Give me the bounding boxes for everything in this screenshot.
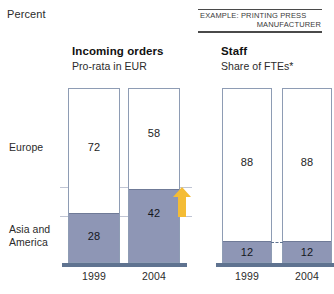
row-label-asia-america-line-1: Asia and <box>9 223 50 235</box>
bar-value-staff-1999-europe: 88 <box>223 156 271 168</box>
bar-value-staff-1999-asia-america: 12 <box>223 246 271 258</box>
axis-baseline-staff <box>216 263 334 267</box>
axis-baseline-incoming-orders <box>62 263 187 267</box>
panel-title-incoming-orders: Incoming orders <box>72 45 164 57</box>
bar-incoming-orders-2004[interactable]: 58 42 <box>128 88 180 263</box>
row-label-europe: Europe <box>9 141 43 154</box>
bar-value-orders-2004-europe: 58 <box>129 127 179 139</box>
example-note-box: EXAMPLE: PRINTING PRESS MANUFACTURER <box>198 9 322 33</box>
bar-value-orders-1999-asia-america: 28 <box>69 230 119 242</box>
bar-staff-2004[interactable]: 88 12 <box>282 88 332 263</box>
bar-segment-staff-1999-asia-america: 12 <box>223 241 271 262</box>
row-label-asia-america: Asia and America <box>9 223 50 249</box>
example-note-line-1: EXAMPLE: PRINTING PRESS <box>198 11 322 20</box>
staff-segment-connector-line <box>271 242 283 243</box>
y-axis-unit-label: Percent <box>7 8 46 20</box>
row-label-asia-america-line-2: America <box>9 236 48 248</box>
bar-value-orders-1999-europe: 72 <box>69 141 119 153</box>
panel-title-staff: Staff <box>221 45 247 57</box>
x-axis-label-staff-2004: 2004 <box>282 270 332 282</box>
bar-staff-1999[interactable]: 88 12 <box>222 88 272 263</box>
up-arrow-icon <box>172 186 192 218</box>
panel-subtitle-incoming-orders: Pro-rata in EUR <box>72 60 147 72</box>
bar-segment-orders-1999-asia-america: 28 <box>69 213 119 262</box>
bar-value-staff-2004-europe: 88 <box>283 156 331 168</box>
x-axis-label-orders-2004: 2004 <box>128 270 180 282</box>
bar-value-staff-2004-asia-america: 12 <box>283 246 331 258</box>
panel-subtitle-staff: Share of FTEs* <box>221 60 293 72</box>
x-axis-label-orders-1999: 1999 <box>68 270 120 282</box>
bar-segment-staff-2004-asia-america: 12 <box>283 241 331 262</box>
example-note-line-2: MANUFACTURER <box>198 20 322 29</box>
bar-incoming-orders-1999[interactable]: 72 28 <box>68 88 120 263</box>
x-axis-label-staff-1999: 1999 <box>222 270 272 282</box>
